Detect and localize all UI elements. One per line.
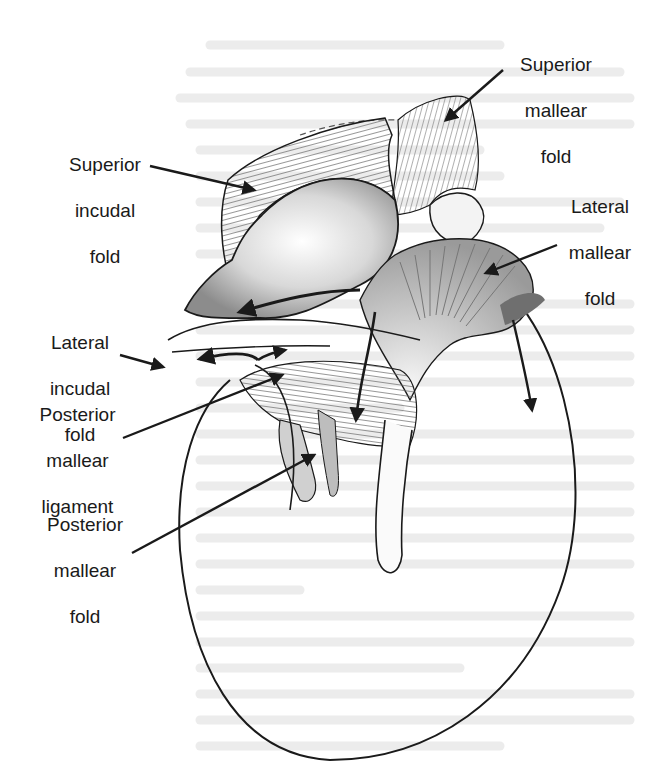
label-line: Superior xyxy=(496,53,616,76)
label-line: mallear xyxy=(555,241,645,264)
label-line: Posterior xyxy=(30,513,140,536)
label-posterior-mallear-fold: Posterior mallear fold xyxy=(30,490,140,651)
label-line: fold xyxy=(30,605,140,628)
label-line: mallear xyxy=(20,449,135,472)
label-line: incudal xyxy=(50,199,160,222)
label-line: fold xyxy=(50,245,160,268)
label-line: fold xyxy=(555,287,645,310)
label-line: fold xyxy=(496,145,616,168)
label-lateral-mallear-fold: Lateral mallear fold xyxy=(555,172,645,333)
label-line: Lateral xyxy=(35,331,125,354)
label-line: Lateral xyxy=(555,195,645,218)
label-line: Superior xyxy=(50,153,160,176)
label-line: Posterior xyxy=(20,403,135,426)
label-superior-incudal-fold: Superior incudal fold xyxy=(50,130,160,291)
label-line: mallear xyxy=(496,99,616,122)
label-line: mallear xyxy=(30,559,140,582)
label-superior-mallear-fold: Superior mallear fold xyxy=(496,30,616,191)
